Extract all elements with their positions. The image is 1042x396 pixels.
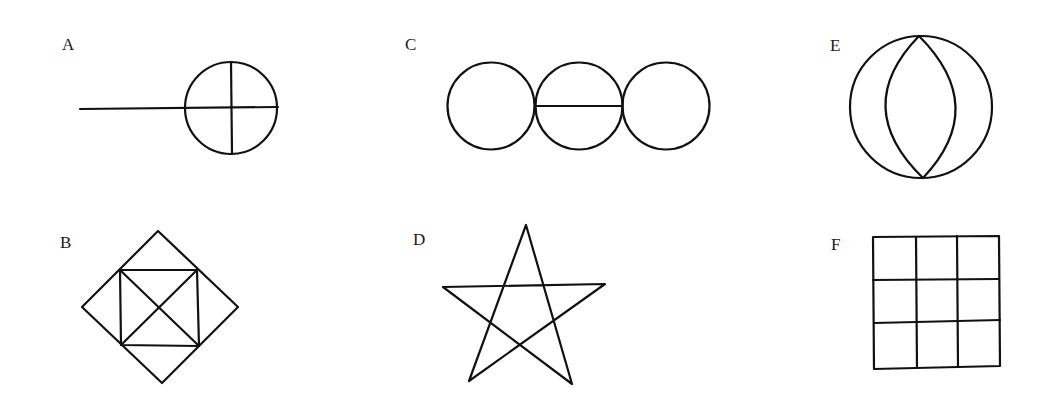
figure-e-circle-lens [850, 36, 992, 178]
figure-d-star [443, 225, 605, 384]
figure-f-grid [873, 236, 1000, 369]
figure-b-diamond-square [82, 231, 238, 383]
figure-c-three-circles [448, 63, 710, 150]
figure-a-line-circle-cross [80, 62, 278, 154]
figures-canvas: A B C D E F [0, 0, 1042, 396]
